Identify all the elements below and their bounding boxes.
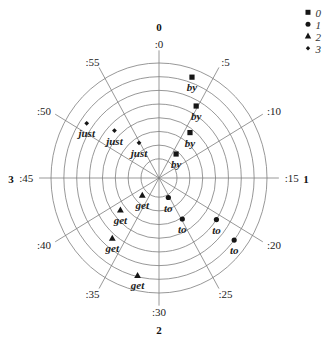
legend-circle-marker xyxy=(306,22,311,27)
legend-diamond-marker xyxy=(306,46,310,50)
grid-spoke xyxy=(99,178,159,289)
data-label: get xyxy=(135,199,150,211)
data-label: get xyxy=(113,214,128,226)
angular-tick-label: :15 xyxy=(285,172,300,184)
angular-tick-label: :10 xyxy=(267,105,282,117)
series-3: justjustjust xyxy=(76,121,148,159)
quadrant-label-left: 3 xyxy=(8,173,14,185)
data-point-circle xyxy=(214,217,219,222)
legend-triangle-marker xyxy=(305,33,311,39)
data-point-triangle xyxy=(134,272,141,278)
data-label: by xyxy=(187,81,198,93)
legend-entry: 1 xyxy=(306,19,322,31)
data-label: just xyxy=(104,135,123,147)
quadrant-label-top: 0 xyxy=(156,21,162,33)
angular-tick-label: :40 xyxy=(37,239,52,251)
polar-chart: :0:5:10:15:20:25:30:35:40:45:50:55 0 1 2… xyxy=(0,0,329,339)
data-label: by xyxy=(191,110,202,122)
data-point-triangle xyxy=(109,235,116,241)
angular-tick-label: :0 xyxy=(155,38,164,50)
data-point-square xyxy=(187,130,192,135)
legend-label: 2 xyxy=(316,31,322,43)
quadrant-label-bottom: 2 xyxy=(156,324,162,336)
data-label: just xyxy=(76,127,95,139)
data-point-triangle xyxy=(117,206,124,212)
legend: 0 1 2 3 xyxy=(305,7,322,55)
data-label: get xyxy=(105,242,120,254)
data-point-diamond xyxy=(84,121,89,126)
grid-spoke xyxy=(159,178,219,289)
data-point-square xyxy=(174,151,179,156)
angular-tick-label: :55 xyxy=(86,56,101,68)
data-label: by xyxy=(171,158,182,170)
data-point-diamond xyxy=(112,128,117,133)
grid-spokes xyxy=(39,50,279,305)
data-point-circle xyxy=(232,237,237,242)
data-point-triangle xyxy=(139,192,146,198)
series-2: getgetgetget xyxy=(105,192,150,292)
data-point-square xyxy=(189,75,194,80)
angular-tick-label: :30 xyxy=(152,306,167,318)
angular-tick-label: :50 xyxy=(37,105,52,117)
data-label: get xyxy=(130,279,145,291)
angular-tick-label: :45 xyxy=(19,172,34,184)
grid-spoke xyxy=(159,178,263,242)
legend-label: 1 xyxy=(316,19,322,31)
data-point-square xyxy=(194,103,199,108)
legend-label: 3 xyxy=(315,43,322,55)
data-label: to xyxy=(164,202,173,214)
grid-spoke xyxy=(99,67,159,178)
data-label: just xyxy=(129,147,148,159)
legend-label: 0 xyxy=(316,7,322,19)
data-label: to xyxy=(230,244,239,256)
legend-entry: 0 xyxy=(306,7,322,19)
data-label: to xyxy=(178,223,187,235)
data-point-circle xyxy=(180,216,185,221)
data-label: by xyxy=(185,137,196,149)
data-label: to xyxy=(212,224,221,236)
angular-tick-label: :35 xyxy=(86,288,101,300)
angular-tick-label: :25 xyxy=(218,288,233,300)
series-0: bybybyby xyxy=(171,75,202,170)
data-marks: bybybybytotototogetgetgetgetjustjustjust xyxy=(76,75,239,292)
data-point-circle xyxy=(166,195,171,200)
legend-entry: 3 xyxy=(306,43,322,55)
legend-square-marker xyxy=(306,10,311,15)
angular-tick-label: :20 xyxy=(267,239,282,251)
angular-tick-label: :5 xyxy=(221,56,230,68)
quadrant-label-right: 1 xyxy=(303,173,309,185)
legend-entry: 2 xyxy=(305,31,322,43)
